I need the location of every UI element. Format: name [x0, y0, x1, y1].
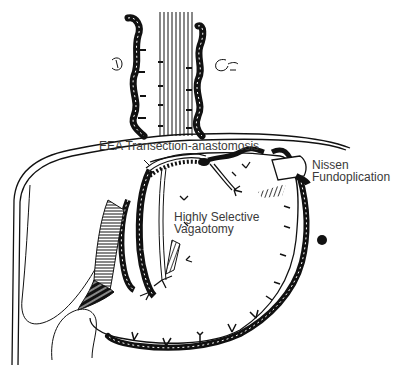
lesser-curvature-vessel — [139, 170, 154, 296]
nissen-fundoplication-label: Nissen Fundoplication — [312, 159, 390, 183]
eea-anastomosis — [144, 154, 210, 176]
left-retractor-icon — [112, 58, 122, 70]
right-retractor-icon — [216, 59, 238, 70]
highly-selective-vagotomy-label: Highly Selective Vagaotomy — [174, 211, 259, 235]
vessel-knot — [317, 235, 327, 245]
nissen-label-line2: Fundoplication — [312, 171, 390, 183]
right-vagal-vessel — [196, 26, 202, 136]
surgical-illustration — [0, 0, 404, 373]
vagus-nerve — [159, 168, 162, 280]
hsv-label-line2: Vagaotomy — [174, 223, 259, 235]
eea-transection-label: EEA Transection-anastomosis — [99, 140, 259, 152]
esophagus — [158, 12, 193, 137]
duodenum-outline — [52, 309, 97, 360]
eea-label-text: EEA Transection-anastomosis — [99, 140, 259, 152]
stomach-hatch-mark — [258, 184, 286, 198]
